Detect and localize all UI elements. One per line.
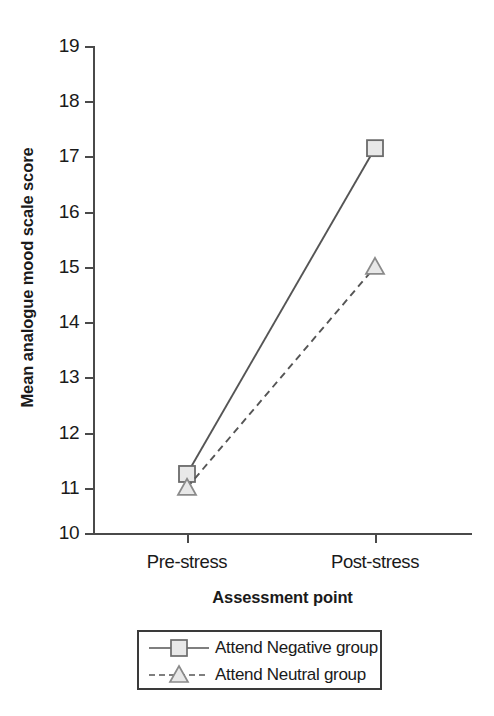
x-axis-tick — [187, 535, 189, 543]
legend-label: Attend Neutral group — [215, 665, 366, 685]
y-axis-tick-label: 12 — [36, 423, 79, 442]
legend-key-square-marker — [147, 635, 211, 661]
data-point-marker — [179, 466, 195, 482]
y-axis-tick — [85, 533, 93, 535]
y-axis-tick — [85, 488, 93, 490]
y-axis-tick-label: 17 — [36, 146, 79, 165]
y-axis-tick-label: 10 — [36, 523, 79, 542]
y-axis-tick — [85, 156, 93, 158]
legend-entry-negative: Attend Negative group — [139, 634, 380, 662]
x-axis-tick-label: Post-stress — [285, 551, 465, 573]
y-axis-tick — [85, 322, 93, 324]
x-axis-line — [93, 533, 472, 535]
y-axis-tick-label: 14 — [36, 312, 79, 331]
y-axis-tick — [85, 433, 93, 435]
legend-label: Attend Negative group — [215, 638, 378, 658]
y-axis-tick-label: 16 — [36, 202, 79, 221]
series-line-neutral — [187, 267, 375, 488]
legend-entry-neutral: Attend Neutral group — [139, 661, 380, 689]
y-axis-title: Mean analogue mood scale score — [18, 128, 37, 428]
y-axis-tick-label: 15 — [36, 257, 79, 276]
y-axis-line — [93, 46, 95, 535]
x-axis-tick-label: Pre-stress — [97, 551, 277, 573]
y-axis-tick — [85, 46, 93, 48]
data-point-marker — [366, 258, 384, 274]
y-axis-tick-label: 13 — [36, 367, 79, 386]
legend-key-triangle-marker — [147, 662, 211, 688]
y-axis-tick-label: 11 — [36, 478, 79, 497]
y-axis-tick-label: 19 — [36, 36, 79, 55]
data-point-marker — [367, 140, 383, 156]
chart-figure: Mean analogue mood scale score 19 18 17 … — [0, 0, 494, 716]
x-axis-title: Assessment point — [93, 588, 472, 607]
x-axis-tick — [375, 535, 377, 543]
y-axis-tick — [85, 267, 93, 269]
series-line-negative — [187, 148, 375, 474]
y-axis-tick-label: 18 — [36, 91, 79, 110]
y-axis-tick — [85, 101, 93, 103]
y-axis-tick — [85, 377, 93, 379]
data-point-marker — [178, 479, 196, 495]
chart-legend: Attend Negative group Attend Neutral gro… — [137, 630, 382, 690]
y-axis-tick — [85, 212, 93, 214]
